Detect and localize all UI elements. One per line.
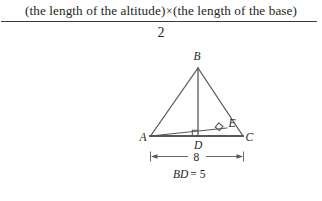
formula-base-term: (the length of the base) [173, 3, 297, 18]
vertex-label-a: A [139, 131, 148, 143]
formula-denominator: 2 [0, 22, 322, 42]
right-angle-marker-e [215, 122, 224, 131]
vertex-label-d: D [193, 139, 203, 151]
altitude-length-note: BD= 5 [173, 168, 206, 180]
vertex-label-e: E [228, 117, 236, 129]
area-formula-fraction: (the length of the altitude)×(the length… [0, 0, 322, 42]
altitude-note-segment: BD [173, 168, 189, 180]
altitude-note-value: = 5 [190, 168, 205, 180]
formula-numerator: (the length of the altitude)×(the length… [0, 0, 322, 21]
multiplication-sign: × [165, 5, 173, 17]
dimension-label-base: 8 [194, 151, 200, 163]
segment-bc [198, 68, 243, 136]
formula-altitude-term: (the length of the altitude) [25, 3, 166, 18]
segment-ab [151, 68, 199, 136]
vertex-label-c: C [246, 131, 254, 143]
triangle-diagram: B E A D C 8 BD= 5 [0, 44, 322, 201]
vertex-label-b: B [194, 50, 201, 62]
segment-ae-altitude [151, 128, 228, 136]
